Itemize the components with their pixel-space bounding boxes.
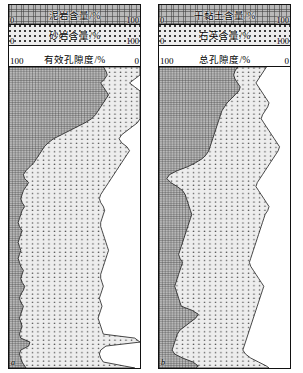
legend-min: 100 — [10, 57, 24, 66]
legend-title: 砂岩含量/% — [9, 28, 140, 42]
legend-title: 泥岩含量/% — [9, 8, 140, 22]
legend-max: 100 — [126, 16, 139, 25]
legend-total-porosity: 总孔隙度/% 100 0 — [158, 46, 291, 67]
legend-min: 0 — [10, 37, 14, 46]
log-track-a: a — [8, 67, 141, 369]
panel-corner-label: b — [161, 358, 165, 367]
legend-quartz-content: 石英含量/% 0 100 — [158, 25, 291, 46]
panel-corner-label: a — [11, 358, 15, 367]
legend-max: 100 — [276, 16, 289, 25]
legend-title: 石英含量/% — [159, 28, 290, 42]
legend-max: 100 — [126, 37, 139, 46]
legend-sandstone-content: 砂岩含量/% 0 100 — [8, 25, 141, 46]
legend-min: 0 — [10, 16, 14, 25]
log-track-b-canvas — [159, 67, 290, 368]
legend-max: 0 — [285, 57, 290, 66]
legend-min: 0 — [160, 37, 164, 46]
log-track-b: b — [158, 67, 291, 369]
legend-dry-clay-content: 干黏土含量/% 0 100 — [158, 4, 291, 25]
legend-effective-porosity: 有效孔隙度/% 100 0 — [8, 46, 141, 67]
legend-title: 干黏土含量/% — [159, 8, 290, 22]
panel-b: 干黏土含量/% 0 100 石英含量/% 0 100 总孔隙度/% 100 0 … — [158, 4, 291, 369]
legend-min: 0 — [160, 16, 164, 25]
legend-min: 100 — [160, 57, 174, 66]
legend-mudstone-content: 泥岩含量/% 0 100 — [8, 4, 141, 25]
legend-title: 总孔隙度/% — [159, 52, 290, 66]
log-track-a-canvas — [9, 67, 140, 368]
legend-max: 100 — [276, 37, 289, 46]
panel-a: 泥岩含量/% 0 100 砂岩含量/% 0 100 有效孔隙度/% 100 0 … — [8, 4, 141, 369]
legend-max: 0 — [135, 57, 140, 66]
legend-title: 有效孔隙度/% — [9, 52, 140, 66]
figure-root: 泥岩含量/% 0 100 砂岩含量/% 0 100 有效孔隙度/% 100 0 … — [0, 0, 303, 373]
